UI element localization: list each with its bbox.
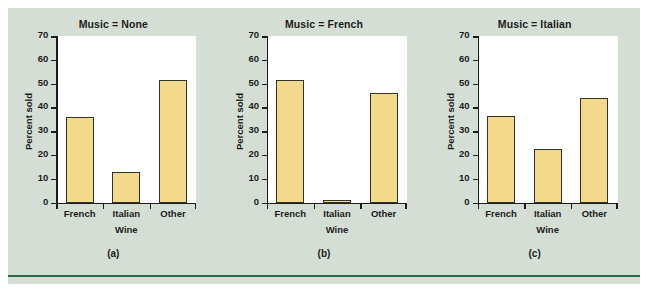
bar-italian [534, 149, 562, 203]
y-axis-tick-label: 60 [459, 53, 470, 64]
panel-caption: (a) [13, 248, 213, 259]
panel-caption: (b) [224, 248, 424, 259]
bar-other [580, 98, 608, 203]
chart-panel-c: Music = Italian Percent sold 01020304050… [435, 8, 635, 266]
bar-french [487, 116, 515, 203]
bar-french [276, 80, 304, 202]
y-axis-tick-label: 40 [459, 100, 470, 111]
x-category-label: Other [582, 208, 607, 219]
x-category-label: French [64, 208, 96, 219]
y-axis-tick-label: 30 [38, 124, 49, 135]
y-axis-tick-label: 0 [254, 196, 259, 207]
y-axis-tick-label: 40 [38, 100, 49, 111]
x-category-label: French [274, 208, 306, 219]
y-axis-tick-label: 10 [38, 172, 49, 183]
y-axis-tick-label: 70 [248, 29, 259, 40]
y-axis-tick-label: 30 [248, 124, 259, 135]
y-axis-tick-label: 50 [38, 77, 49, 88]
y-axis-tick-label: 20 [459, 148, 470, 159]
bar-italian [323, 200, 351, 203]
x-axis-label: Wine [478, 224, 618, 235]
y-axis-tick-label: 0 [464, 196, 469, 207]
x-axis-label: Wine [56, 224, 196, 235]
y-axis-tick-label: 10 [459, 172, 470, 183]
bottom-rule-divider [8, 275, 640, 277]
plot-area-wrapper: 010203040506070 [267, 36, 407, 204]
y-axis-tick-label: 30 [459, 124, 470, 135]
chart-panel-a: Music = None Percent sold 01020304050607… [13, 8, 213, 266]
x-category-label: Italian [323, 208, 350, 219]
x-category-label: Italian [534, 208, 561, 219]
bar-italian [112, 172, 140, 203]
figure-container: Music = None Percent sold 01020304050607… [8, 8, 640, 284]
x-axis-label: Wine [267, 224, 407, 235]
y-axis-tick-label: 70 [38, 29, 49, 40]
panel-row: Music = None Percent sold 01020304050607… [8, 8, 640, 266]
y-axis-tick-label: 20 [248, 148, 259, 159]
x-category-labels: FrenchItalianOther [56, 208, 196, 222]
bar-group [478, 36, 618, 203]
panel-caption: (c) [435, 248, 635, 259]
y-axis-tick-label: 40 [248, 100, 259, 111]
y-axis-tick-label: 10 [248, 172, 259, 183]
y-axis-label: Percent sold [233, 77, 244, 167]
y-axis-tick-label: 60 [38, 53, 49, 64]
y-axis-label: Percent sold [444, 77, 455, 167]
y-axis-tick-label: 70 [459, 29, 470, 40]
y-axis-tick-label: 50 [459, 77, 470, 88]
x-category-label: Other [371, 208, 396, 219]
y-axis-tick-label: 60 [248, 53, 259, 64]
x-category-label: French [485, 208, 517, 219]
bar-group [56, 36, 196, 203]
plot-area-wrapper: 010203040506070 [478, 36, 618, 204]
plot-area-wrapper: 010203040506070 [56, 36, 196, 204]
y-axis-tick-label: 0 [43, 196, 48, 207]
bar-other [159, 80, 187, 202]
x-axis-line [267, 203, 407, 205]
x-category-label: Other [160, 208, 185, 219]
x-category-label: Italian [113, 208, 140, 219]
y-axis-label: Percent sold [23, 77, 34, 167]
y-axis-tick-label: 20 [38, 148, 49, 159]
y-axis-tick-label: 50 [248, 77, 259, 88]
bar-french [66, 117, 94, 203]
bar-group [267, 36, 407, 203]
bar-other [370, 93, 398, 202]
x-category-labels: FrenchItalianOther [267, 208, 407, 222]
chart-panel-b: Music = French Percent sold 010203040506… [224, 8, 424, 266]
x-axis-line [478, 203, 618, 205]
x-category-labels: FrenchItalianOther [478, 208, 618, 222]
x-axis-line [56, 203, 196, 205]
